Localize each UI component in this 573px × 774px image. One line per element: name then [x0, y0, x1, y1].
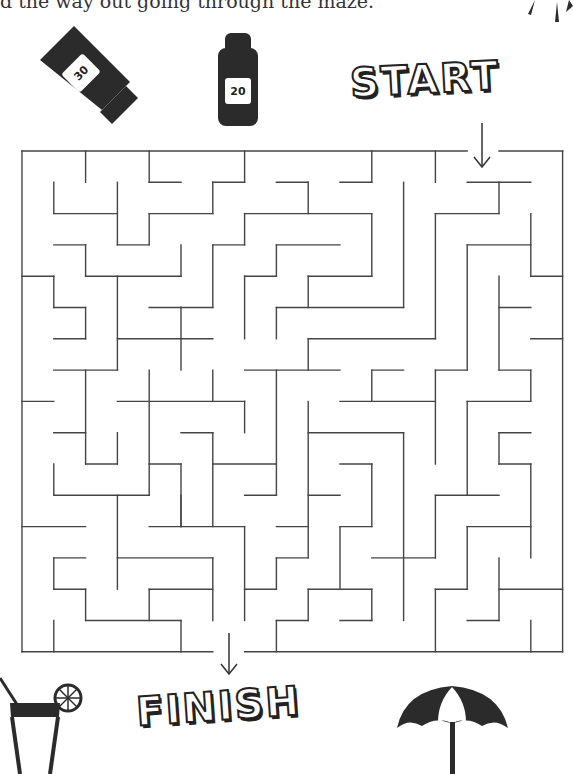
finish-label: FINISH: [135, 677, 303, 734]
sunscreen-tube-icon: 30: [40, 22, 140, 132]
sunscreen-bottle-icon: 20: [218, 33, 258, 126]
instruction-text: d the way out going through the maze.: [0, 0, 374, 12]
beach-umbrella-icon: [395, 684, 510, 774]
spf-30-label: 30: [71, 63, 91, 83]
start-label: START: [349, 52, 501, 106]
cocktail-icon: [0, 676, 85, 774]
spf-20-label: 20: [230, 85, 245, 98]
